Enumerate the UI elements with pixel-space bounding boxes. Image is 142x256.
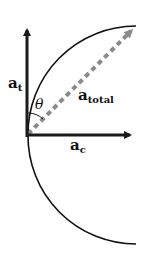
total-acceleration-vector (28, 31, 131, 134)
acceleration-diagram: at θ atotal ac (0, 0, 142, 256)
centripetal-label: ac (70, 136, 86, 155)
total-label: atotal (78, 86, 114, 105)
angle-label: θ (35, 96, 44, 112)
tangential-label: at (8, 74, 23, 93)
